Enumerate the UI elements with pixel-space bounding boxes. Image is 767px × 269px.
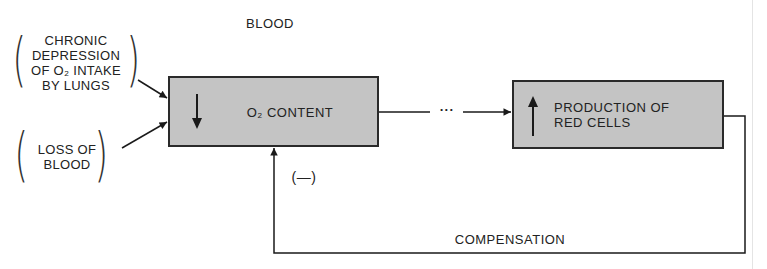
up-arrow-icon bbox=[526, 96, 540, 136]
cause-text-line: BY LUNGS bbox=[16, 78, 136, 93]
production-label-line: RED CELLS bbox=[554, 115, 704, 130]
oxygen-content-label: O₂ CONTENT bbox=[230, 105, 350, 120]
cause-2-arrow bbox=[122, 122, 167, 148]
right-paren-icon: ) bbox=[127, 31, 141, 89]
right-paren-icon: ) bbox=[95, 126, 109, 184]
blood-header: BLOOD bbox=[230, 16, 310, 31]
negative-feedback-sign: (—) bbox=[286, 170, 322, 185]
cause-text-line: DEPRESSION bbox=[16, 48, 136, 63]
production-label: PRODUCTION OF RED CELLS bbox=[554, 100, 704, 130]
cause-text-line: OF O₂ INTAKE bbox=[16, 63, 136, 78]
down-arrow-icon bbox=[190, 94, 204, 130]
cause-text-line: CHRONIC bbox=[16, 33, 136, 48]
connector-dots: ··· bbox=[430, 102, 464, 117]
cause-1-arrow bbox=[138, 80, 167, 98]
compensation-label: COMPENSATION bbox=[440, 232, 580, 247]
red-cell-production-box: PRODUCTION OF RED CELLS bbox=[512, 80, 724, 149]
oxygen-content-box: O₂ CONTENT bbox=[168, 76, 379, 147]
production-label-line: PRODUCTION OF bbox=[554, 100, 704, 115]
